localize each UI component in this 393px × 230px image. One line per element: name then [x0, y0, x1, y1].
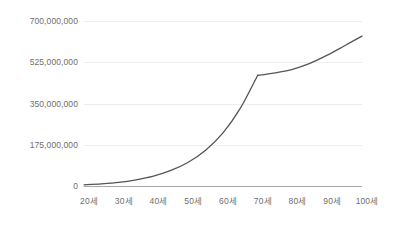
y-tick-label: 525,000,000: [0, 57, 78, 67]
x-tick-label: 40세: [150, 196, 168, 207]
x-tick-label: 60세: [219, 196, 237, 207]
x-tick-label: 90세: [323, 196, 341, 207]
x-tick-label: 50세: [184, 196, 202, 207]
y-tick-label: 350,000,000: [0, 99, 78, 109]
x-tick-label: 20세: [80, 196, 98, 207]
series-line-accumulated-amount: [84, 36, 362, 185]
x-axis: 20세30세40세50세60세70세80세90세100세: [0, 196, 393, 216]
x-tick-label: 30세: [115, 196, 133, 207]
x-tick-label: 80세: [289, 196, 307, 207]
y-tick-label: 700,000,000: [0, 16, 78, 26]
y-tick-label: 175,000,000: [0, 140, 78, 150]
line-chart: 0175,000,000350,000,000525,000,000700,00…: [0, 0, 393, 230]
x-tick-label: 100세: [356, 196, 379, 207]
y-tick-label: 0: [0, 181, 78, 191]
x-tick-label: 70세: [254, 196, 272, 207]
